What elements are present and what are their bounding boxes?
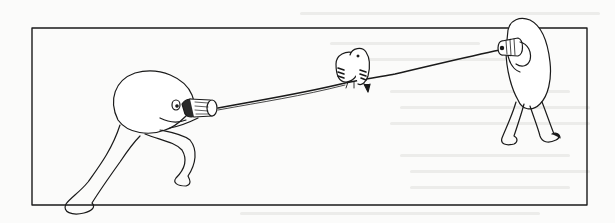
tin-can-left bbox=[190, 99, 217, 117]
left-figure bbox=[65, 71, 217, 214]
tin-can-right bbox=[498, 38, 523, 56]
tin-can-telephone-illustration bbox=[0, 0, 615, 223]
right-figure bbox=[498, 18, 560, 144]
birds bbox=[336, 48, 370, 92]
